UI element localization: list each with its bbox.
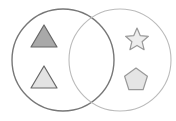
pentagon-icon bbox=[125, 68, 148, 90]
venn-diagram bbox=[0, 0, 176, 121]
light-triangle-icon bbox=[31, 66, 57, 88]
right-set-circle bbox=[69, 9, 171, 111]
dark-triangle-icon bbox=[31, 25, 57, 47]
left-set-circle bbox=[12, 9, 114, 111]
star-icon bbox=[126, 28, 149, 50]
